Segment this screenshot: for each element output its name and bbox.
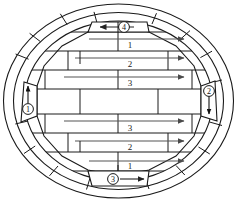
course-label-1: 1 (128, 40, 133, 50)
port-1-group[interactable]: 1 (21, 82, 37, 122)
port-3-label: 3 (111, 175, 115, 184)
kiln-cross-section-diagram: 1 2 3 3 2 1 4 3 1 (0, 0, 237, 202)
inner-chamber (37, 26, 201, 176)
course-label-3: 3 (128, 78, 133, 88)
chamber-outline (37, 26, 201, 176)
port-4-label: 4 (122, 23, 126, 32)
course-label-7: 1 (128, 161, 133, 171)
port-1-label: 1 (26, 105, 30, 114)
course-label-2: 2 (128, 59, 133, 69)
port-4-group[interactable]: 4 (88, 22, 149, 33)
port-2-label: 2 (207, 87, 211, 96)
course-label-5: 3 (128, 123, 133, 133)
port-1-housing (21, 82, 37, 122)
course-label-6: 2 (128, 142, 133, 152)
port-2-group[interactable]: 2 (201, 81, 217, 121)
diagram-canvas: 1 2 3 3 2 1 4 3 1 (0, 0, 237, 202)
